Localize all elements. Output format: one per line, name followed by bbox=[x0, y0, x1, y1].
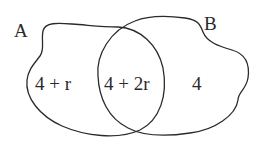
venn-diagram: A B 4 + r 4 + 2r 4 bbox=[0, 0, 257, 141]
region-b-only-label: 4 bbox=[192, 73, 202, 94]
set-b-label: B bbox=[204, 13, 217, 34]
set-a-label: A bbox=[14, 20, 28, 41]
region-a-and-b-label: 4 + 2r bbox=[104, 73, 150, 94]
region-a-only-label: 4 + r bbox=[35, 73, 72, 94]
